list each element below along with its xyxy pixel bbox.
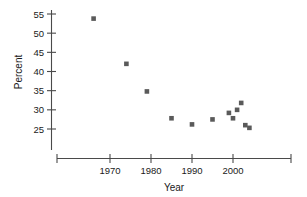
y-axis-title: Percent [13, 55, 24, 90]
y-tick-label: 45 [33, 47, 44, 58]
y-tick-label: 50 [33, 28, 44, 39]
data-point-marker [91, 16, 96, 21]
data-point-marker [243, 123, 248, 128]
data-point-marker [235, 108, 240, 113]
x-tick-label: 1970 [99, 165, 120, 176]
data-point-marker [247, 126, 252, 131]
data-point-marker [190, 122, 195, 127]
y-tick-label: 35 [33, 85, 44, 96]
y-tick-label: 25 [33, 124, 44, 135]
y-tick-label: 40 [33, 66, 44, 77]
data-point-marker [227, 111, 232, 116]
x-tick-label: 2000 [222, 165, 243, 176]
x-tick-label: 1980 [140, 165, 161, 176]
x-axis-tick-labels: 1970198019902000 [99, 165, 243, 176]
data-point-marker [145, 89, 150, 94]
data-point-marker [239, 101, 244, 106]
y-axis-tick-labels: 25303540455055 [33, 9, 44, 135]
y-tick-label: 30 [33, 104, 44, 115]
data-point-marker [169, 116, 174, 121]
data-point-marker [210, 117, 215, 122]
data-point-group [91, 16, 251, 130]
chart-canvas: 25303540455055 1970198019902000 Year Per… [0, 0, 307, 197]
data-point-marker [231, 116, 236, 121]
scatter-chart: 25303540455055 1970198019902000 Year Per… [0, 0, 307, 197]
x-axis-title: Year [164, 182, 185, 193]
y-tick-label: 55 [33, 9, 44, 20]
x-tick-label: 1990 [181, 165, 202, 176]
data-point-marker [124, 62, 129, 67]
